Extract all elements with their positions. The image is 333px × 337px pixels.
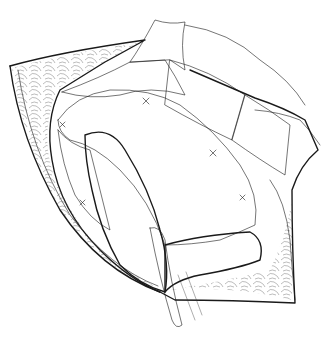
fat-layer-left [12,42,158,288]
fat-layer-bottom [170,200,292,300]
oblique-muscle [85,132,167,292]
cord-hatch [178,275,195,320]
surgical-illustration [0,0,333,337]
rectus-segments [165,25,320,175]
cord-hatch-2 [186,272,202,315]
sutures [60,98,245,205]
